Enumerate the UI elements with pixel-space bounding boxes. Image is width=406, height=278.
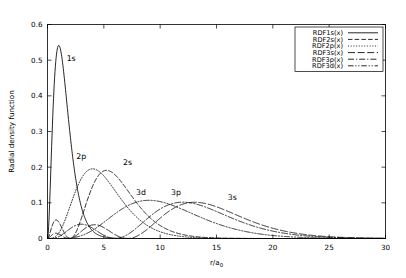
y-axis-label: Radial density function [7, 90, 16, 172]
radial-density-function-chart: 05101520253000.10.20.30.40.50.6r/a0Radia… [0, 0, 406, 278]
curve-2p [48, 169, 386, 239]
y-tick-label: 0 [38, 234, 43, 243]
x-tick-label: 0 [45, 243, 50, 252]
y-tick-label: 0.2 [31, 163, 42, 172]
annotation-2s: 2s [123, 158, 132, 167]
x-tick-label: 15 [212, 243, 221, 252]
x-tick-label: 20 [268, 243, 278, 252]
curve-1s [48, 45, 386, 238]
chart-container: 05101520253000.10.20.30.40.50.6r/a0Radia… [0, 0, 406, 278]
x-tick-label: 25 [325, 243, 334, 252]
y-tick-label: 0.3 [31, 127, 42, 136]
y-tick-label: 0.6 [31, 20, 43, 29]
curve-3p [48, 202, 386, 238]
curve-3s [48, 202, 386, 238]
curves-group [48, 45, 386, 238]
y-tick-label: 0.4 [31, 91, 43, 100]
x-tick-label: 5 [102, 243, 107, 252]
curve-2s [48, 170, 386, 238]
y-tick-label: 0.5 [31, 56, 42, 65]
annotation-3s: 3s [228, 193, 237, 202]
annotation-2p: 2p [76, 152, 86, 161]
annotation-3p: 3p [171, 188, 181, 197]
y-tick-label: 0.1 [31, 198, 42, 207]
annotation-3d: 3d [136, 188, 146, 197]
curve-annotations: 1s2s2p3s3p3d [67, 54, 237, 202]
annotation-1s: 1s [67, 54, 76, 63]
x-tick-label: 30 [381, 243, 391, 252]
curve-3d [48, 200, 386, 238]
x-tick-label: 10 [156, 243, 166, 252]
legend: RDF1s(x)RDF2s(x)RDF2p(x)RDF3s(x)RDF3p(x)… [295, 27, 383, 72]
legend-label-3d: RDF3d(x) [312, 62, 343, 70]
x-axis-label: r/a0 [210, 258, 224, 268]
